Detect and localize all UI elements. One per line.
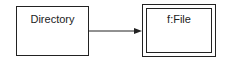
arrowhead-icon bbox=[134, 28, 142, 34]
node-directory[interactable]: Directory bbox=[16, 6, 89, 56]
node-label: f:File bbox=[143, 13, 215, 25]
node-file[interactable]: f:File bbox=[142, 4, 216, 57]
node-label: Directory bbox=[17, 13, 88, 25]
